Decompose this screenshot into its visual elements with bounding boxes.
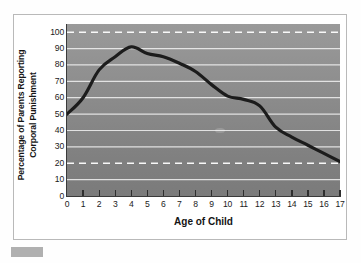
x-tick-mark <box>291 190 292 196</box>
corner-swatch <box>11 247 43 257</box>
y-tick-label: 80 <box>38 60 64 69</box>
y-tick-label: 10 <box>38 175 64 184</box>
plot-inner <box>67 24 340 196</box>
x-tick-mark <box>211 190 212 196</box>
y-tick-label: 70 <box>38 77 64 86</box>
y-axis-tick-labels: 0102030405060708090100 <box>36 24 64 196</box>
x-tick-mark <box>99 190 100 196</box>
x-tick-mark <box>275 190 276 196</box>
x-tick-mark <box>323 190 324 196</box>
x-tick-mark <box>115 190 116 196</box>
y-tick-label: 100 <box>38 28 64 37</box>
y-tick-label: 20 <box>38 159 64 168</box>
x-tick-mark <box>163 190 164 196</box>
scan-smudge <box>215 128 225 133</box>
y-tick-label: 40 <box>38 126 64 135</box>
data-series-line <box>67 24 340 196</box>
x-tick-mark <box>82 190 83 196</box>
figure-root: Percentage of Parents Reporting Corporal… <box>0 0 361 263</box>
y-tick-label: 60 <box>38 93 64 102</box>
x-axis-tick-marks <box>67 190 340 197</box>
scan-artifact-text <box>70 0 270 8</box>
x-tick-mark <box>195 190 196 196</box>
x-tick-mark <box>227 190 228 196</box>
x-tick-mark <box>259 190 260 196</box>
y-axis-title-line1: Percentage of Parents Reporting <box>16 50 26 181</box>
y-tick-label: 30 <box>38 142 64 151</box>
y-tick-label: 90 <box>38 44 64 53</box>
x-tick-label: 17 <box>330 199 350 209</box>
x-axis-tick-labels: 01234567891011121314151617 <box>67 199 340 213</box>
x-tick-mark <box>179 190 180 196</box>
x-tick-mark <box>243 190 244 196</box>
x-axis-title: Age of Child <box>67 216 340 227</box>
x-tick-mark <box>307 190 308 196</box>
y-axis-line <box>66 24 67 197</box>
x-tick-mark <box>339 190 340 196</box>
y-tick-label: 50 <box>38 110 64 119</box>
x-tick-mark <box>147 190 148 196</box>
x-tick-mark <box>131 190 132 196</box>
plot-area <box>67 24 340 196</box>
